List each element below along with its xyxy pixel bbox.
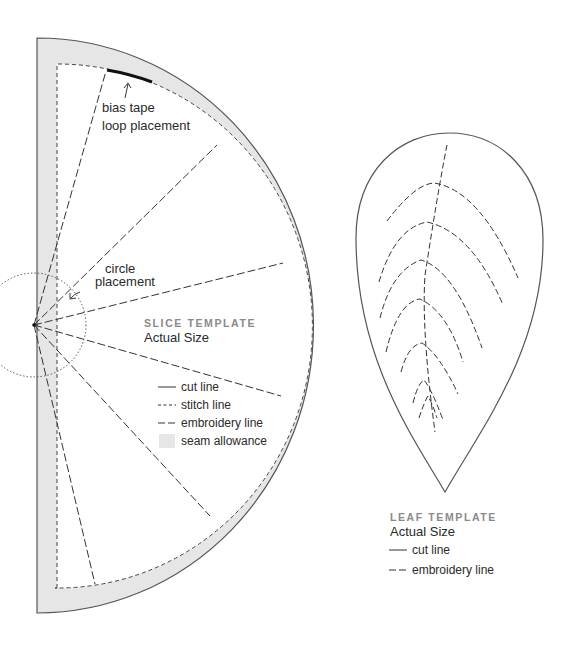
solid-line-icon [389,547,407,553]
legend-label: stitch line [181,398,231,412]
leaf-cut-line [356,133,543,492]
leaf-embroidery-veins [379,145,518,432]
seam-allowance-swatch-icon [159,434,175,448]
slice-legend-stitch-line: stitch line [158,398,231,412]
circle-placement-label-line2: placement [95,274,155,290]
slice-template-subtitle: Actual Size [144,330,209,346]
leaf-template-title: LEAF TEMPLATE [390,510,497,524]
leaf-legend-embroidery-line: embroidery line [389,563,494,577]
legend-label: embroidery line [181,416,263,430]
leaf-legend-cut-line: cut line [389,543,450,557]
pattern-canvas [0,0,576,646]
legend-label: embroidery line [412,563,494,577]
legend-label: seam allowance [181,434,267,448]
long-dash-line-icon [158,420,176,426]
bias-tape-label-line1: bias tape [102,100,155,116]
legend-label: cut line [412,543,450,557]
short-dash-line-icon [158,402,176,408]
slice-legend-cut-line: cut line [158,380,219,394]
slice-legend-embroidery-line: embroidery line [158,416,263,430]
long-dash-line-icon [389,567,407,573]
leaf-template-subtitle: Actual Size [390,524,455,540]
solid-line-icon [158,384,176,390]
slice-center-point [32,323,36,327]
legend-label: cut line [181,380,219,394]
slice-legend-seam-allowance: seam allowance [159,434,267,448]
slice-template-title: SLICE TEMPLATE [144,316,256,330]
bias-tape-label-line2: loop placement [102,118,190,134]
